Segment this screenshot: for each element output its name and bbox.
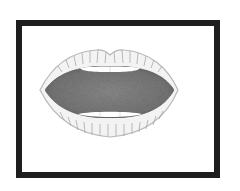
mouth-illustration	[0, 0, 240, 191]
